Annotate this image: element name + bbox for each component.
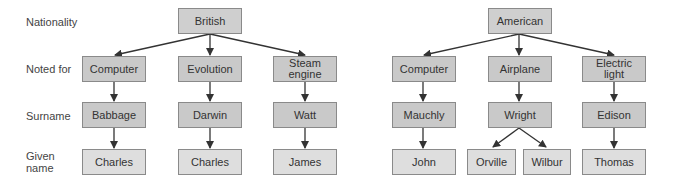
node-american-computer: Computer — [392, 56, 456, 82]
node-mauchly: Mauchly — [392, 102, 456, 128]
node-darwin: Darwin — [178, 102, 242, 128]
node-charles-babbage: Charles — [82, 149, 146, 175]
node-text-line2: light — [604, 69, 624, 80]
node-american: American — [488, 8, 552, 34]
node-charles-darwin: Charles — [178, 149, 242, 175]
node-text-line2: engine — [288, 69, 321, 80]
node-british-steam-engine: Steam engine — [273, 56, 337, 82]
node-john: John — [392, 149, 456, 175]
node-watt: Watt — [273, 102, 337, 128]
node-james: James — [273, 149, 337, 175]
node-babbage: Babbage — [82, 102, 146, 128]
node-british-evolution: Evolution — [178, 56, 242, 82]
node-edison: Edison — [582, 102, 646, 128]
node-wright: Wright — [488, 102, 552, 128]
node-american-electric-light: Electric light — [582, 56, 646, 82]
node-american-airplane: Airplane — [488, 56, 552, 82]
node-wilbur: Wilbur — [523, 149, 571, 175]
node-orville: Orville — [467, 149, 516, 175]
node-thomas: Thomas — [582, 149, 646, 175]
node-british: British — [178, 8, 242, 34]
node-british-computer: Computer — [82, 56, 146, 82]
